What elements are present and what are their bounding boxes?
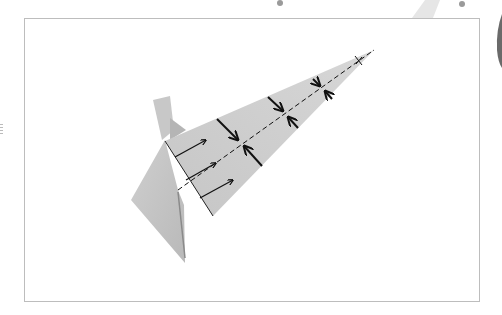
page: [0, 0, 502, 315]
origami-diagram: [0, 0, 502, 315]
valley-fold-line: [178, 50, 374, 190]
front-flap: [165, 50, 374, 216]
